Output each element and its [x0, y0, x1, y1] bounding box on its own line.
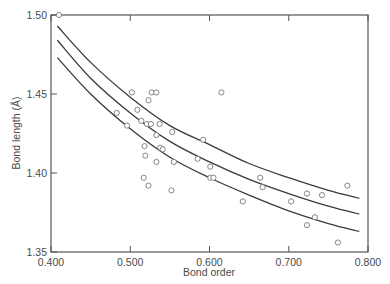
y-tick-label: 1.35	[27, 246, 48, 258]
y-tick-label: 1.40	[27, 167, 48, 179]
bond-length-chart: 0.4000.5000.6000.7000.8001.351.401.451.5…	[0, 0, 390, 284]
data-point-marker	[289, 199, 294, 204]
y-tick-label: 1.50	[27, 9, 48, 21]
data-point-marker	[135, 107, 140, 112]
data-point-marker	[304, 191, 309, 196]
data-point-marker	[146, 183, 151, 188]
data-point-marker	[148, 121, 153, 126]
data-point-marker	[142, 144, 147, 149]
data-point-marker	[171, 159, 176, 164]
data-point-marker	[201, 137, 206, 142]
x-axis-label: Bond order	[183, 266, 235, 278]
data-point-marker	[139, 118, 144, 123]
data-point-marker	[56, 12, 61, 17]
y-axis-label: Bond length (Å)	[10, 97, 22, 170]
x-tick-label: 0.700	[276, 256, 302, 268]
fit-curves	[57, 26, 359, 231]
data-point-marker	[304, 223, 309, 228]
data-point-marker	[312, 215, 317, 220]
data-point-marker	[157, 121, 162, 126]
plot-border	[51, 15, 368, 252]
data-point-marker	[114, 110, 119, 115]
data-point-marker	[160, 147, 165, 152]
data-point-marker	[208, 164, 213, 169]
data-point-marker	[146, 98, 151, 103]
data-point-marker	[143, 153, 148, 158]
data-point-marker	[335, 240, 340, 245]
data-point-marker	[319, 193, 324, 198]
data-point-marker	[169, 188, 174, 193]
data-point-marker	[260, 185, 265, 190]
data-point-marker	[141, 175, 146, 180]
y-tick-label: 1.45	[27, 88, 48, 100]
data-point-marker	[154, 159, 159, 164]
data-points	[56, 12, 350, 245]
middle-curve	[57, 40, 359, 214]
data-point-marker	[219, 90, 224, 95]
data-point-marker	[154, 90, 159, 95]
plot-frame	[51, 15, 368, 252]
x-tick-label: 0.500	[117, 256, 143, 268]
data-point-marker	[170, 129, 175, 134]
data-point-marker	[124, 123, 129, 128]
data-point-marker	[195, 156, 200, 161]
data-point-marker	[211, 175, 216, 180]
data-point-marker	[258, 175, 263, 180]
data-point-marker	[154, 132, 159, 137]
data-point-marker	[345, 183, 350, 188]
upper-curve	[57, 26, 359, 198]
data-point-marker	[129, 90, 134, 95]
data-point-marker	[240, 199, 245, 204]
x-tick-label: 0.800	[355, 256, 381, 268]
